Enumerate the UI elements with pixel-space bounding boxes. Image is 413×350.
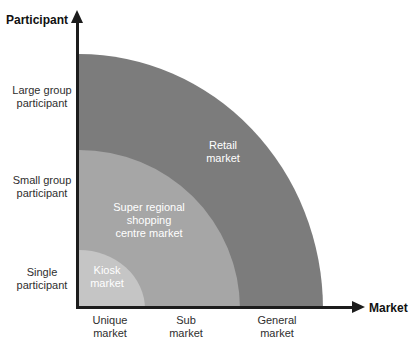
x-axis-arrow-icon: [352, 301, 365, 313]
x-axis-line: [76, 306, 354, 309]
y-label-single-participant: Single participant: [4, 266, 80, 292]
y-label-large-group-participant: Large group participant: [4, 84, 80, 110]
x-label-unique-market: Unique market: [74, 314, 146, 340]
y-axis-arrow-icon: [71, 10, 83, 23]
y-label-small-group-participant: Small group participant: [4, 174, 80, 200]
y-axis-title: Participant: [0, 13, 68, 27]
market-participant-diagram: Retail market Super regional shopping ce…: [0, 0, 413, 350]
x-axis-title: Market: [369, 301, 408, 315]
retail-market-label: Retail market: [185, 139, 261, 165]
kiosk-market-label: Kiosk market: [70, 264, 144, 290]
x-label-general-market: General market: [241, 314, 313, 340]
super-regional-market-label: Super regional shopping centre market: [98, 201, 200, 240]
x-label-sub-market: Sub market: [150, 314, 222, 340]
